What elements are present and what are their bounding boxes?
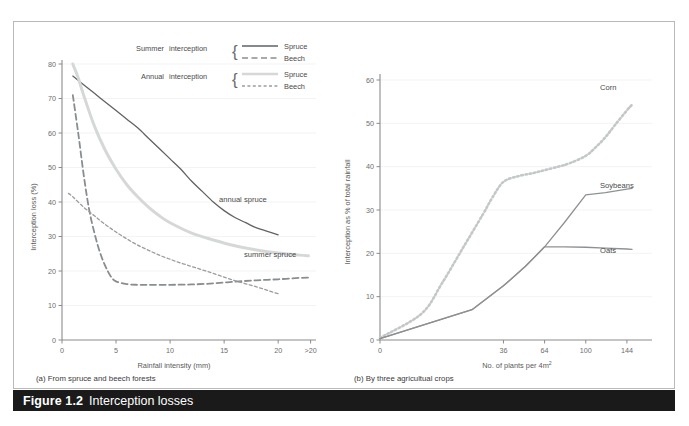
chart-b-ytick-60: 60 [366, 76, 374, 85]
legend-row-1-brace-icon: { [232, 70, 238, 89]
legend-row-1-item-1-label: Beech [284, 82, 305, 91]
legend-row-0-brace-icon: { [232, 42, 238, 61]
chart-a-xtick-1: 5 [114, 346, 118, 355]
chart-b-ytick-40: 40 [366, 162, 374, 171]
chart-a-ytick-20: 20 [48, 267, 56, 276]
chart-b-xtick-2: 64 [541, 346, 549, 355]
chart-a-svg: 0102030405060708005101520>20 Interceptio… [14, 22, 344, 390]
chart-b-annotation-oats: Oats [600, 246, 616, 255]
chart-b-x-axis-title: No. of plants per 4m2 [482, 360, 552, 370]
legend-row-0-item-0-label: Spruce [284, 42, 307, 51]
chart-a-annotation-annual-spruce: annual spruce [219, 195, 267, 204]
legend-row-1-word: interception [169, 72, 207, 81]
chart-a-y-axis-title: Interception loss (%) [29, 183, 38, 250]
chart-a-ytick-30: 30 [48, 232, 56, 241]
chart-a-legend: Summer interception { Spruce Beech Annua… [136, 42, 307, 91]
chart-a-series-annual-spruce [73, 76, 278, 235]
chart-a-ytick-10: 10 [48, 301, 56, 310]
chart-b-axes [377, 74, 653, 344]
legend-row-1-item-0-label: Spruce [284, 70, 307, 79]
legend-row-0-group: Summer [136, 44, 164, 53]
chart-b-ytick-50: 50 [366, 119, 374, 128]
chart-b-series [380, 105, 632, 339]
chart-a-gridlines [62, 64, 316, 306]
chart-a-ytick-50: 50 [48, 163, 56, 172]
chart-a-ytick-60: 60 [48, 129, 56, 138]
chart-a-xtick-0: 0 [60, 346, 64, 355]
chart-a-series-annual-beech [68, 193, 278, 293]
chart-panel-b: 010203040506003664100144 Interception as… [332, 22, 676, 390]
legend-row-1-group: Annual [141, 72, 164, 81]
figure-frame: 0102030405060708005101520>20 Interceptio… [13, 21, 675, 389]
chart-a-xtick-3: 15 [220, 346, 228, 355]
chart-a-xtick-5: >20 [304, 346, 316, 355]
chart-b-xtick-1: 36 [499, 346, 507, 355]
chart-b-tick-labels: 010203040506003664100144 [366, 76, 633, 355]
chart-a-ytick-40: 40 [48, 198, 56, 207]
chart-panel-a: 0102030405060708005101520>20 Interceptio… [14, 22, 344, 390]
chart-b-subcaption: (b) By three agricultual crops [354, 374, 454, 383]
chart-a-xtick-2: 10 [166, 346, 174, 355]
chart-b-series-Corn [380, 105, 632, 338]
chart-b-xtick-0: 0 [378, 346, 382, 355]
chart-b-xtick-3: 100 [580, 346, 592, 355]
chart-a-ytick-70: 70 [48, 94, 56, 103]
chart-b-ytick-30: 30 [366, 206, 374, 215]
chart-b-svg: 010203040506003664100144 Interception as… [332, 22, 676, 390]
chart-b-annotation-soybeans: Soybeans [600, 181, 634, 190]
legend-row-0-word: interception [169, 44, 207, 53]
chart-a-annotation-summer-spruce: summer spruce [244, 250, 296, 259]
chart-b-xtick-4: 144 [621, 346, 633, 355]
chart-b-ytick-20: 20 [366, 249, 374, 258]
figure-number: Figure 1.2 [13, 394, 83, 408]
chart-b-y-axis-title: Interception as % of total rainfall [343, 159, 352, 265]
chart-b-annotation-corn: Corn [600, 83, 616, 92]
chart-a-x-axis-title: Rainfall intensity (mm) [137, 361, 210, 370]
chart-a-ytick-80: 80 [48, 60, 56, 69]
chart-a-subcaption: (a) From spruce and beech forests [36, 374, 156, 383]
chart-b-ytick-10: 10 [366, 292, 374, 301]
legend-row-0-item-1-label: Beech [284, 54, 305, 63]
chart-a-ytick-0: 0 [52, 336, 56, 345]
chart-a-xtick-4: 20 [274, 346, 282, 355]
figure-title: Interception losses [83, 394, 193, 408]
chart-b-series-Oats [380, 247, 632, 339]
figure-caption-bar: Figure 1.2 Interception losses [13, 390, 675, 411]
chart-b-ytick-0: 0 [370, 336, 374, 345]
